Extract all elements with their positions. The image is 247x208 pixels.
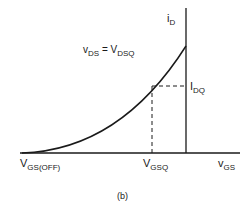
vds-subscript: DS <box>88 49 99 58</box>
equals-sign: = <box>102 44 108 55</box>
vgsq-subscript: GSQ <box>150 163 168 172</box>
diagram-canvas <box>0 0 247 208</box>
vdsq-subscript: DSQ <box>117 49 134 58</box>
figure-caption: (b) <box>117 192 128 201</box>
transfer-curve <box>22 46 186 153</box>
idq-label: IDQ <box>190 81 205 95</box>
y-axis-label: iD <box>167 13 175 27</box>
x-axis-label: vGS <box>218 158 235 172</box>
idq-subscript: DQ <box>193 86 205 95</box>
vgs-off-subscript: GS(OFF) <box>27 163 60 172</box>
y-axis-subscript: D <box>169 18 175 27</box>
x-axis-subscript: GS <box>224 163 236 172</box>
curve-condition-label: vDS = VDSQ <box>83 45 135 58</box>
vgs-off-label: VGS(OFF) <box>20 158 60 172</box>
vgsq-label: VGSQ <box>143 158 168 172</box>
